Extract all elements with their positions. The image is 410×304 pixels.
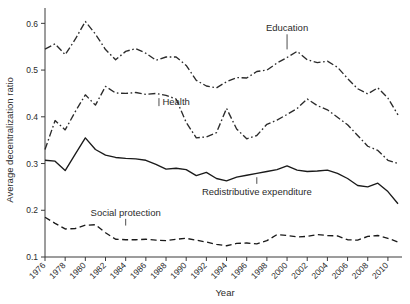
chart-figure: 0.10.20.30.40.50.6 197619781980198219841… [0, 0, 410, 304]
annotation-label-health: Health [162, 96, 189, 107]
y-tick-label: 0.4 [26, 112, 38, 122]
annotation-label-social-protection: Social protection [91, 207, 161, 218]
x-axis-title: Year [215, 287, 234, 298]
annotation-label-education: Education [266, 22, 308, 33]
chart-background [0, 0, 410, 304]
y-tick-label: 0.3 [26, 159, 38, 169]
y-tick-label: 0.6 [26, 19, 38, 29]
annotation-label-redistributive-expenditure: Redistributive expenditure [202, 186, 312, 197]
y-tick-label: 0.1 [26, 252, 38, 262]
y-axis-title: Average decentralization ratio [4, 77, 15, 203]
y-tick-label: 0.2 [26, 205, 38, 215]
line-chart: 0.10.20.30.40.50.6 197619781980198219841… [0, 0, 410, 304]
y-tick-label: 0.5 [26, 65, 38, 75]
